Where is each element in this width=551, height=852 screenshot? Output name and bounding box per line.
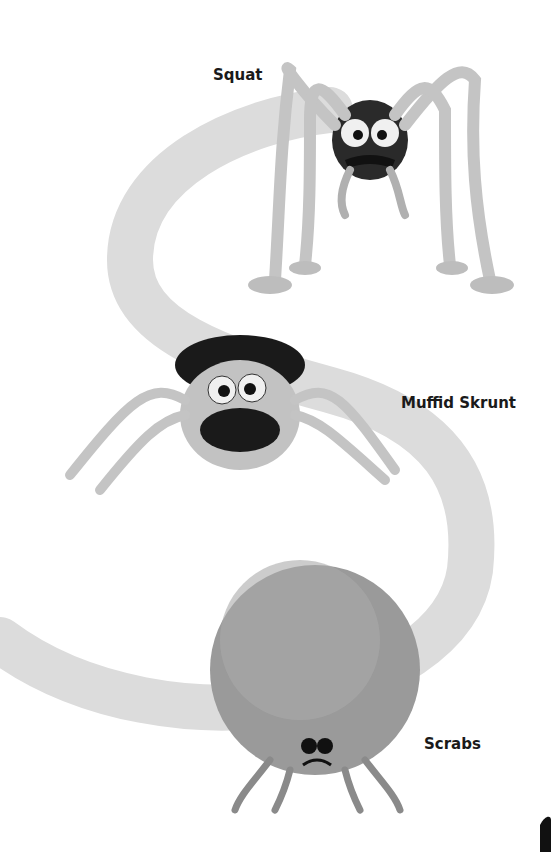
scrabs-creature (210, 560, 420, 810)
squat-creature (248, 68, 514, 294)
muffid-skrunt-creature (70, 335, 395, 490)
illustration (0, 0, 551, 852)
corner-logo-icon (540, 817, 551, 852)
label-scrabs: Scrabs (424, 735, 481, 753)
label-muffid-skrunt: Muffid Skrunt (401, 394, 516, 412)
label-squat: Squat (213, 66, 263, 84)
